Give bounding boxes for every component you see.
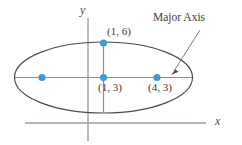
point-label-center: (1, 3) [98,82,122,93]
major-axis-label: Major Axis [153,12,205,24]
point-focus-left [38,74,45,81]
ellipse-diagram-svg [0,0,242,145]
point-label-focus-right: (4, 3) [148,82,172,93]
x-axis-label: x [215,115,220,127]
major-axis-arrowhead [171,70,179,75]
point-top-vertex [100,39,107,46]
y-axis-label: y [80,4,85,16]
point-label-top-vertex: (1, 6) [107,26,131,37]
ellipse-figure: Major Axis (1, 6) (1, 3) (4, 3) y x [0,0,242,145]
